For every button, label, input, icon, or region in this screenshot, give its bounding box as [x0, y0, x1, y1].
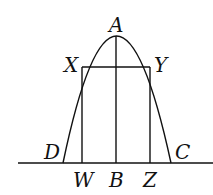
- label-B: B: [108, 168, 124, 192]
- label-D: D: [43, 140, 60, 164]
- label-Z: Z: [142, 168, 158, 192]
- label-W: W: [73, 168, 95, 192]
- label-Y: Y: [154, 53, 169, 77]
- label-X: X: [62, 53, 79, 77]
- label-A: A: [107, 13, 123, 37]
- parabola-diagram: A X Y D C W B Z: [0, 0, 213, 195]
- label-C: C: [175, 140, 190, 164]
